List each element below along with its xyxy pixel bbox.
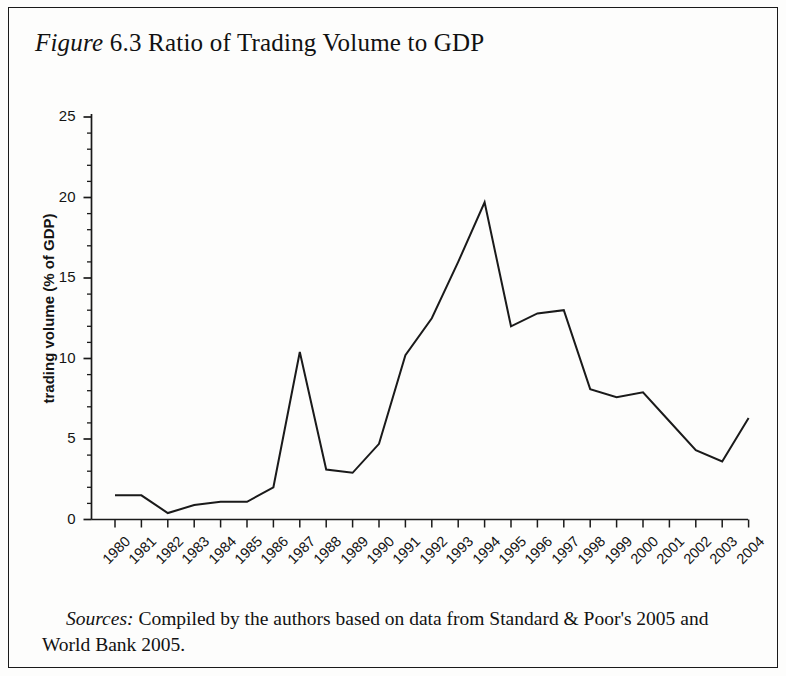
source-note-lead: Sources: [66, 608, 134, 629]
y-tick-label: 15 [36, 268, 76, 285]
y-tick-label: 10 [36, 349, 76, 366]
source-note-text: Compiled by the authors based on data fr… [42, 608, 708, 655]
y-tick-label: 25 [36, 107, 76, 124]
y-tick-label: 0 [36, 510, 76, 527]
y-tick-label: 20 [36, 188, 76, 205]
source-note: Sources: Compiled by the authors based o… [42, 606, 742, 658]
chart-plot-area: trading volume (% of GDP) 0510152025 198… [0, 0, 786, 676]
y-axis-title: trading volume (% of GDP) [40, 179, 57, 439]
figure-page: Figure 6.3 Ratio of Trading Volume to GD… [0, 0, 786, 676]
y-tick-label: 5 [36, 429, 76, 446]
